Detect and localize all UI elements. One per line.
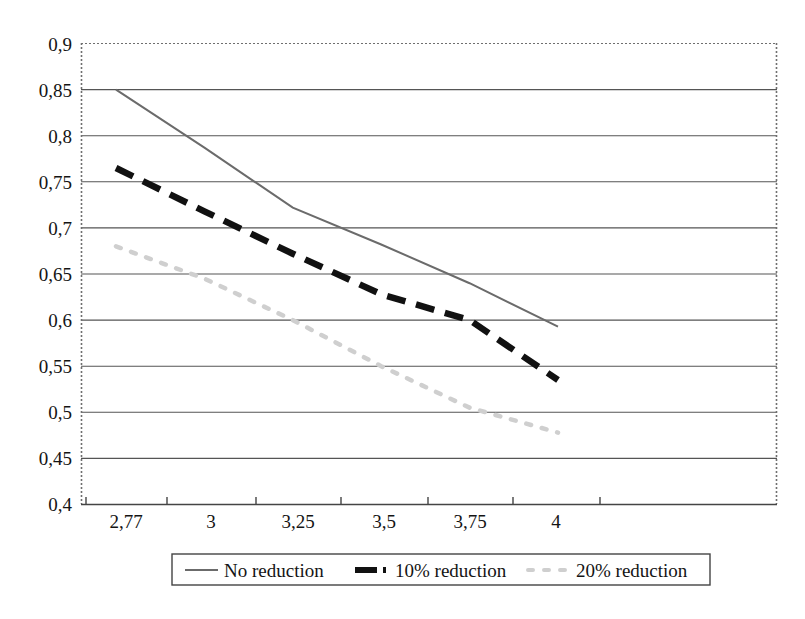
x-axis-labels: 2,77 3 3,25 3,5 3,75 4 <box>109 511 561 532</box>
y-tick-label: 0,6 <box>48 310 72 331</box>
y-tick-label: 0,9 <box>48 34 72 55</box>
y-axis-labels: 0,9 0,85 0,8 0,75 0,7 0,65 0,6 0,55 0,5 … <box>39 34 73 515</box>
y-tick-label: 0,75 <box>39 172 72 193</box>
x-tick-label: 3,25 <box>281 511 314 532</box>
y-tick-label: 0,45 <box>39 448 72 469</box>
chart-container: 0,9 0,85 0,8 0,75 0,7 0,65 0,6 0,55 0,5 … <box>0 0 805 619</box>
y-tick-label: 0,5 <box>48 402 72 423</box>
legend-label-20-reduction: 20% reduction <box>576 560 688 581</box>
y-tick-label: 0,85 <box>39 80 72 101</box>
y-tick-label: 0,8 <box>48 126 72 147</box>
y-tick-label: 0,7 <box>48 218 72 239</box>
x-tick-label: 2,77 <box>109 511 142 532</box>
y-tick-label: 0,55 <box>39 356 72 377</box>
legend-label-10-reduction: 10% reduction <box>395 560 507 581</box>
x-tick-label: 3,75 <box>453 511 486 532</box>
x-tick-label: 3 <box>206 511 216 532</box>
chart-legend: No reduction 10% reduction 20% reduction <box>172 554 710 585</box>
legend-label-no-reduction: No reduction <box>224 560 324 581</box>
x-tick-label: 4 <box>551 511 561 532</box>
x-tick-label: 3,5 <box>372 511 396 532</box>
y-tick-label: 0,4 <box>48 494 72 515</box>
line-chart: 0,9 0,85 0,8 0,75 0,7 0,65 0,6 0,55 0,5 … <box>0 0 805 619</box>
y-tick-label: 0,65 <box>39 264 72 285</box>
